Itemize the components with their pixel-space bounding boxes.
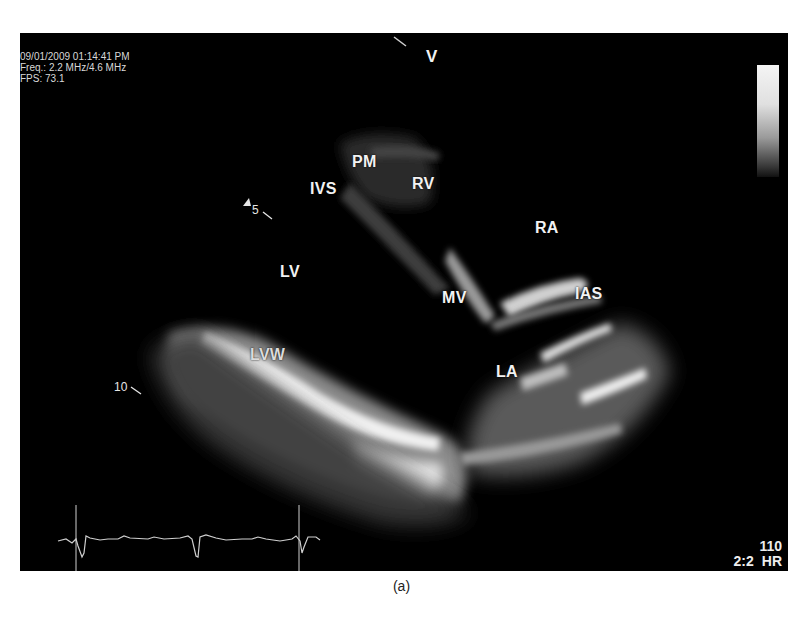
label-ias: IAS [575, 285, 603, 303]
label-mv: MV [442, 289, 467, 307]
label-ra: RA [535, 219, 559, 237]
grayscale-bar [757, 65, 779, 177]
depth-tick-icon [392, 35, 412, 49]
ultrasound-image-panel: 09/01/2009 01:14:41 PM Freq.: 2.2 MHz/4.… [20, 33, 788, 571]
frame-ratio: 2:2 [734, 553, 754, 569]
label-la: LA [496, 363, 518, 381]
label-rv: RV [412, 175, 435, 193]
ecg-trace [20, 33, 340, 571]
heart-rate-value: 110 [734, 539, 782, 554]
label-pm: PM [352, 153, 377, 171]
heart-rate-label: HR [762, 553, 782, 569]
figure-caption: (a) [0, 578, 803, 594]
heart-rate-display: 110 2:2HR [734, 539, 782, 569]
orientation-marker: V [426, 47, 438, 67]
